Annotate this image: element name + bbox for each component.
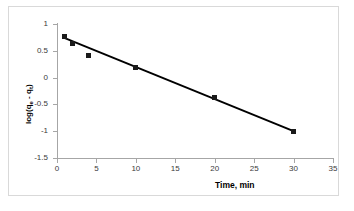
x-axis-tick-label: 30 (282, 165, 306, 173)
data-point (212, 95, 217, 100)
x-axis-tick (215, 159, 216, 163)
x-axis-tick-label: 35 (321, 165, 345, 173)
x-axis-line (57, 158, 334, 159)
x-axis-tick-label: 0 (45, 165, 69, 173)
x-axis-tick (57, 159, 58, 163)
x-axis-tick (294, 159, 295, 163)
data-point (62, 34, 67, 39)
data-point (70, 41, 75, 46)
y-axis-line (57, 23, 58, 159)
y-axis-tick-label: 1 (44, 20, 48, 28)
x-axis-tick (175, 159, 176, 163)
x-axis-tick (96, 159, 97, 163)
x-axis-tick-label: 5 (84, 165, 108, 173)
data-point (133, 65, 138, 70)
y-axis-tick (53, 24, 57, 25)
y-axis-tick-label: -0.5 (34, 100, 48, 108)
y-axis-title: log(qe - qt) (24, 110, 33, 124)
chart-container: 10.50-0.5-1-1.5 05101520253035 log(qe - … (0, 0, 354, 211)
x-axis-tick-label: 20 (203, 165, 227, 173)
x-axis-tick (333, 159, 334, 163)
y-axis-tick (53, 51, 57, 52)
x-axis-tick-label: 25 (242, 165, 266, 173)
y-axis-tick-label: 0.5 (37, 47, 48, 55)
x-axis-tick-label: 10 (124, 165, 148, 173)
y-axis-tick-label: 0 (44, 74, 48, 82)
y-axis-tick (53, 78, 57, 79)
data-point (291, 129, 296, 134)
y-axis-tick (53, 131, 57, 132)
y-axis-tick (53, 104, 57, 105)
x-axis-tick (136, 159, 137, 163)
x-axis-tick-label: 15 (163, 165, 187, 173)
x-axis-title: Time, min (215, 180, 255, 190)
data-point (86, 53, 91, 58)
y-axis-tick-label: -1 (41, 127, 48, 135)
x-axis-tick (254, 159, 255, 163)
y-axis-tick-label: -1.5 (34, 154, 48, 162)
